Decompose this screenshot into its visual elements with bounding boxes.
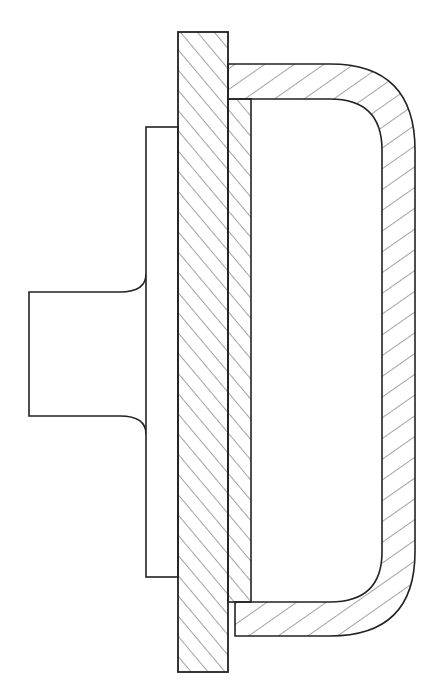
hub bbox=[29, 274, 146, 434]
u-shaped-cover bbox=[228, 64, 415, 636]
inner-plate bbox=[228, 99, 251, 602]
spacer-plate bbox=[146, 127, 178, 577]
main-flange-plate bbox=[178, 32, 228, 672]
cross-section-drawing bbox=[0, 0, 438, 699]
